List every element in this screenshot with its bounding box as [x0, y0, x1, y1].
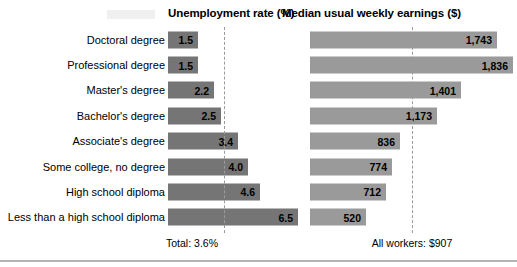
bar-unemployment-rate: 6.5	[168, 209, 298, 226]
bar-unemployment-rate: 2.2	[168, 82, 214, 99]
scan-artifact	[107, 10, 155, 19]
bar-value-median-earnings: 520	[343, 211, 361, 223]
bar-unemployment-rate: 4.6	[168, 183, 260, 200]
bar-value-unemployment-rate: 4.0	[228, 161, 243, 173]
bar-value-unemployment-rate: 1.5	[178, 59, 193, 71]
chart-row: Bachelor's degree2.51,173	[0, 103, 517, 128]
bar-value-median-earnings: 1,836	[482, 59, 508, 71]
category-label: Associate's degree	[72, 135, 165, 147]
category-label: Professional degree	[67, 59, 165, 71]
category-label: Master's degree	[86, 84, 165, 96]
chart-rows: Doctoral degree1.51,743Professional degr…	[0, 27, 517, 230]
bar-unemployment-rate: 4.0	[168, 158, 248, 175]
bar-value-median-earnings: 774	[369, 161, 387, 173]
bar-unemployment-rate: 3.4	[168, 133, 238, 150]
bar-median-earnings: 520	[310, 209, 366, 226]
bar-median-earnings: 774	[310, 158, 392, 175]
column-header-median-earnings: Median usual weekly earnings ($)	[282, 7, 461, 19]
chart-row: Less than a high school diploma6.5520	[0, 205, 517, 230]
reference-line-earnings	[412, 27, 413, 233]
bar-value-median-earnings: 712	[363, 186, 381, 198]
category-label: Doctoral degree	[87, 34, 165, 46]
bar-median-earnings: 1,401	[310, 82, 461, 99]
bar-unemployment-rate: 1.5	[168, 31, 198, 48]
bar-value-unemployment-rate: 2.2	[194, 84, 209, 96]
footnote-all-workers-earnings: All workers: $907	[372, 237, 453, 249]
category-label: Bachelor's degree	[77, 110, 165, 122]
chart-row: Some college, no degree4.0774	[0, 154, 517, 179]
bar-median-earnings: 1,173	[310, 107, 437, 124]
bar-value-median-earnings: 836	[377, 135, 395, 147]
category-label: Some college, no degree	[43, 161, 165, 173]
chart-row: Doctoral degree1.51,743	[0, 27, 517, 52]
category-label: High school diploma	[66, 186, 165, 198]
chart-row: Associate's degree3.4836	[0, 129, 517, 154]
chart-row: Master's degree2.21,401	[0, 78, 517, 103]
column-header-unemployment-rate: Unemployment rate (%)	[168, 7, 294, 19]
bar-value-unemployment-rate: 3.4	[218, 135, 233, 147]
bar-value-unemployment-rate: 6.5	[278, 211, 293, 223]
bar-median-earnings: 836	[310, 133, 400, 150]
bar-value-median-earnings: 1,401	[430, 84, 456, 96]
bar-median-earnings: 712	[310, 183, 386, 200]
bar-unemployment-rate: 2.5	[168, 107, 221, 124]
chart-row: Professional degree1.51,836	[0, 52, 517, 77]
bar-unemployment-rate: 1.5	[168, 57, 198, 74]
footnote-total-unemployment: Total: 3.6%	[166, 237, 218, 249]
bar-value-unemployment-rate: 2.5	[201, 110, 216, 122]
education-pay-chart: Unemployment rate (%) Median usual weekl…	[0, 0, 517, 267]
bar-value-median-earnings: 1,743	[466, 34, 492, 46]
chart-row: High school diploma4.6712	[0, 179, 517, 204]
bar-median-earnings: 1,743	[310, 31, 497, 48]
category-label: Less than a high school diploma	[8, 211, 165, 223]
bottom-divider	[0, 260, 517, 262]
bar-value-median-earnings: 1,173	[406, 110, 432, 122]
bar-value-unemployment-rate: 1.5	[178, 34, 193, 46]
reference-line-unemployment	[224, 27, 225, 233]
bar-value-unemployment-rate: 4.6	[240, 186, 255, 198]
